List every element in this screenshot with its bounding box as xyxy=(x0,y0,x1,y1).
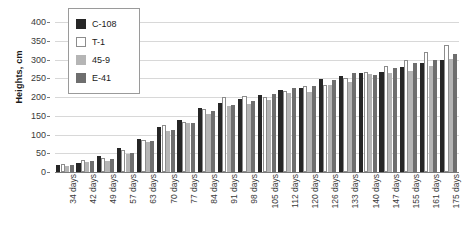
chart-legend: C-108T-145-9E-41 xyxy=(68,8,140,94)
bar xyxy=(352,73,356,172)
x-tick-label: 133 days xyxy=(351,174,360,209)
bar xyxy=(90,161,94,172)
x-tick-label: 120 days xyxy=(311,174,320,209)
legend-item: 45-9 xyxy=(76,51,133,69)
bar-group xyxy=(319,22,337,172)
bar xyxy=(433,60,437,173)
y-tick-label: 150 xyxy=(31,111,46,120)
x-tick-label: 57 days xyxy=(129,174,138,204)
x-tick-label: 98 days xyxy=(250,174,259,204)
y-tick-mark xyxy=(47,135,50,136)
y-tick-mark xyxy=(47,97,50,98)
bar xyxy=(292,88,296,172)
bar-group xyxy=(339,22,357,172)
y-tick-label: 0 xyxy=(41,168,46,177)
y-tick-mark xyxy=(47,153,50,154)
bar xyxy=(171,130,175,172)
legend-item: E-41 xyxy=(76,69,133,87)
legend-swatch-icon xyxy=(76,19,86,29)
legend-item-label: 45-9 xyxy=(92,55,110,65)
y-tick-label: 250 xyxy=(31,74,46,83)
bar xyxy=(150,141,154,173)
y-tick-label: 200 xyxy=(31,93,46,102)
x-tick-label: 70 days xyxy=(170,174,179,204)
legend-item-label: C-108 xyxy=(92,19,117,29)
x-tick-label: 105 days xyxy=(271,174,280,209)
bar xyxy=(211,111,215,172)
legend-swatch-icon xyxy=(76,73,86,83)
x-tick-label: 147 days xyxy=(392,174,401,209)
bar xyxy=(312,86,316,172)
y-tick-mark xyxy=(47,78,50,79)
y-tick-mark xyxy=(47,172,50,173)
bar-group xyxy=(299,22,317,172)
x-tick-label: 175 days xyxy=(452,174,461,209)
y-tick-mark xyxy=(47,116,50,117)
x-tick-label: 140 days xyxy=(372,174,381,209)
x-tick-label: 161 days xyxy=(432,174,441,209)
bar xyxy=(251,101,255,172)
x-tick-label: 112 days xyxy=(291,174,300,208)
bar-group xyxy=(278,22,296,172)
legend-item: T-1 xyxy=(76,33,133,51)
bar-group xyxy=(420,22,438,172)
bar-group xyxy=(379,22,397,172)
bar xyxy=(191,123,195,172)
x-tick-label: 63 days xyxy=(149,174,158,204)
bar xyxy=(231,105,235,173)
y-tick-label: 100 xyxy=(31,130,46,139)
bar-group xyxy=(218,22,236,172)
legend-item-label: E-41 xyxy=(92,73,111,83)
y-tick-mark xyxy=(47,60,50,61)
x-tick-label: 34 days xyxy=(69,174,78,204)
y-axis-tick-labels: 050100150200250300350400 xyxy=(0,22,50,172)
y-tick-mark xyxy=(47,22,50,23)
bar xyxy=(393,68,397,172)
x-tick-label: 84 days xyxy=(210,174,219,204)
x-axis-tick-labels: 34 days42 days49 days57 days63 days70 da… xyxy=(55,174,459,232)
x-tick-label: 155 days xyxy=(412,174,421,209)
bar xyxy=(373,75,377,172)
bar xyxy=(272,94,276,172)
x-tick-label: 91 days xyxy=(230,174,239,204)
bar-group xyxy=(400,22,418,172)
y-tick-mark xyxy=(47,41,50,42)
y-tick-label: 350 xyxy=(31,36,46,45)
bar-chart: Heights, cm 050100150200250300350400 34 … xyxy=(0,0,464,235)
bar-group xyxy=(177,22,195,172)
legend-item-label: T-1 xyxy=(92,37,105,47)
bar-group xyxy=(157,22,175,172)
bar xyxy=(70,165,74,172)
bar xyxy=(453,54,457,172)
legend-swatch-icon xyxy=(76,55,86,65)
bar-group xyxy=(440,22,458,172)
bar xyxy=(332,80,336,172)
x-tick-label: 42 days xyxy=(89,174,98,204)
bar-group xyxy=(238,22,256,172)
bar xyxy=(130,153,134,173)
bar-group xyxy=(198,22,216,172)
bar xyxy=(413,63,417,172)
x-tick-label: 77 days xyxy=(190,174,199,204)
x-tick-label: 49 days xyxy=(109,174,118,204)
y-tick-label: 400 xyxy=(31,18,46,27)
x-tick-label: 126 days xyxy=(331,174,340,209)
bar-group xyxy=(359,22,377,172)
bar-group xyxy=(258,22,276,172)
legend-swatch-icon xyxy=(76,37,86,47)
y-tick-label: 300 xyxy=(31,55,46,64)
bar xyxy=(110,159,114,172)
legend-item: C-108 xyxy=(76,15,133,33)
gridline xyxy=(55,172,459,173)
y-tick-label: 50 xyxy=(36,149,46,158)
